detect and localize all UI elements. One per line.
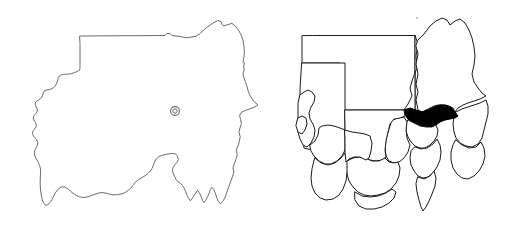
admin-divisions-svg (260, 0, 520, 232)
country-outline-svg (0, 0, 260, 232)
map-panel-country-outline[interactable] (0, 0, 260, 232)
map-figure (0, 0, 520, 232)
admin-region-east-darfur[interactable] (345, 130, 372, 162)
sudan-country-boundary-path[interactable] (33, 21, 258, 206)
admin-region-red-sea[interactable] (416, 18, 486, 112)
map-panel-admin-divisions[interactable] (260, 0, 520, 232)
image-speck-artifact (416, 17, 418, 19)
